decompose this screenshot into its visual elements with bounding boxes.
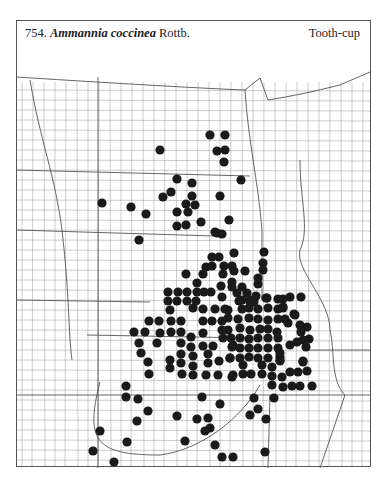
occurrence-dot (253, 304, 262, 313)
occurrence-dot (245, 410, 254, 419)
occurrence-dot (290, 310, 299, 319)
occurrence-dot (165, 363, 174, 372)
occurrence-dot (229, 248, 238, 257)
occurrence-dot (238, 369, 247, 378)
occurrence-dot (163, 296, 172, 305)
occurrence-dot (273, 333, 282, 342)
occurrence-dot (210, 440, 219, 449)
occurrence-dot (283, 318, 292, 327)
occurrence-dot (263, 343, 272, 352)
occurrence-dot (216, 281, 225, 290)
occurrence-dot (236, 175, 245, 184)
occurrence-dot (206, 287, 215, 296)
occurrence-dot (229, 266, 238, 275)
occurrence-dot (186, 332, 195, 341)
occurrence-dot (172, 296, 181, 305)
occurrence-dot (176, 316, 185, 325)
occurrence-dot (269, 393, 278, 402)
occurrence-dot (109, 457, 118, 466)
occurrence-dot (177, 369, 186, 378)
occurrence-dot (277, 372, 286, 381)
occurrence-dot (198, 328, 207, 337)
occurrence-dot (134, 235, 143, 244)
occurrence-dot (134, 338, 143, 347)
occurrence-dot (188, 303, 197, 312)
occurrence-dot (278, 382, 287, 391)
occurrence-dot (158, 192, 167, 201)
occurrence-dot (205, 130, 214, 139)
occurrence-dot (181, 220, 190, 229)
occurrence-dot (133, 394, 142, 403)
occurrence-dot (244, 334, 253, 343)
occurrence-dot (208, 341, 217, 350)
occurrence-dot (223, 313, 232, 322)
occurrence-dot (223, 325, 232, 334)
occurrence-dot (253, 404, 262, 413)
occurrence-dot (258, 265, 267, 274)
occurrence-dot (176, 349, 185, 358)
occurrence-dot (97, 198, 106, 207)
occurrence-dot (244, 303, 253, 312)
occurrence-dot (154, 316, 163, 325)
occurrence-dot (255, 324, 264, 333)
occurrence-dot (121, 381, 130, 390)
occurrence-dot (217, 292, 226, 301)
occurrence-dot (203, 413, 212, 422)
occurrence-dot (181, 269, 190, 278)
occurrence-dot (233, 314, 242, 323)
occurrence-dot (245, 325, 254, 334)
occurrence-dot (262, 293, 271, 302)
occurrence-dot (257, 369, 266, 378)
occurrence-dot (173, 287, 182, 296)
occurrence-dot (129, 327, 138, 336)
occurrence-dot (227, 342, 236, 351)
occurrence-dot (163, 287, 172, 296)
occurrence-dot (88, 446, 97, 455)
occurrence-dot (235, 323, 244, 332)
occurrence-dot (176, 327, 185, 336)
occurrence-dot (166, 316, 175, 325)
occurrence-dot (141, 209, 150, 218)
occurrence-dot (249, 393, 258, 402)
occurrence-dot (220, 145, 229, 154)
occurrence-dot (223, 305, 232, 314)
occurrence-dot (245, 295, 254, 304)
occurrence-dot (253, 279, 262, 288)
occurrence-dot (212, 146, 221, 155)
occurrence-dot (210, 304, 219, 313)
occurrence-dot (155, 328, 164, 337)
occurrence-dot (192, 414, 201, 423)
occurrence-dot (237, 295, 246, 304)
occurrence-dot (240, 266, 249, 275)
occurrence-dot (267, 371, 276, 380)
occurrence-dot (197, 392, 206, 401)
occurrence-dot (212, 228, 221, 237)
occurrence-dot (214, 356, 223, 365)
occurrence-dot (302, 366, 311, 375)
occurrence-dot (298, 357, 307, 366)
occurrence-dot (121, 392, 130, 401)
occurrence-dot (203, 349, 212, 358)
occurrence-dot (165, 355, 174, 364)
occurrence-dot (275, 356, 284, 365)
occurrence-dot (205, 423, 214, 432)
occurrence-dot (263, 353, 272, 362)
occurrence-dot (188, 361, 197, 370)
occurrence-dot (152, 338, 161, 347)
county-grid (17, 82, 370, 466)
occurrence-dot (226, 333, 235, 342)
occurrence-dot (188, 370, 197, 379)
occurrence-dot (172, 174, 181, 183)
occurrence-dot (238, 360, 247, 369)
occurrence-dot (259, 247, 268, 256)
occurrence-dot (198, 316, 207, 325)
occurrence-dot (224, 215, 233, 224)
occurrence-dot (244, 313, 253, 322)
occurrence-dot (187, 178, 196, 187)
occurrence-dot (172, 411, 181, 420)
occurrence-dot (263, 303, 272, 312)
occurrence-dot (188, 351, 197, 360)
occurrence-dot (213, 370, 222, 379)
occurrence-dot (165, 305, 174, 314)
occurrence-dot (217, 452, 226, 461)
